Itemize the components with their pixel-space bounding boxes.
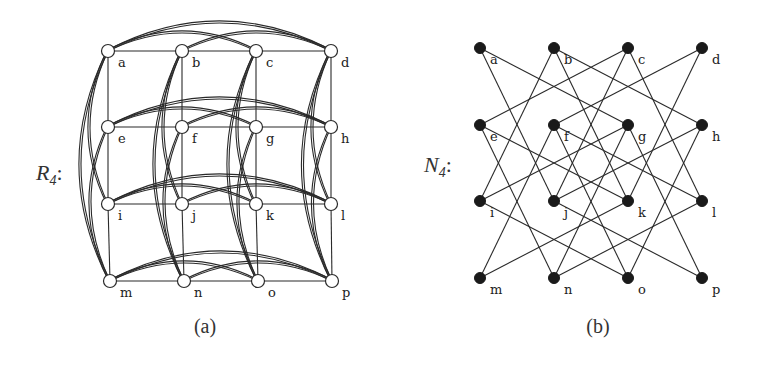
node-circle-icon <box>325 198 338 211</box>
node-j: j <box>549 196 569 221</box>
rook-graph-edges <box>108 51 332 281</box>
node-l: l <box>697 196 717 221</box>
node-label: m <box>120 285 132 300</box>
node-n: n <box>178 275 204 301</box>
node-circle-icon <box>102 198 115 211</box>
rook-graph-nodes: abcdefghijklmnop <box>102 45 351 301</box>
node-label: b <box>192 55 200 70</box>
node-dot-icon <box>623 120 634 131</box>
node-label: o <box>268 285 276 300</box>
node-label: c <box>266 55 273 70</box>
node-o: o <box>623 273 647 298</box>
knight-graph-nodes: abcdefghijklmnop <box>475 43 722 298</box>
node-m: m <box>475 273 503 298</box>
node-label: g <box>638 129 646 144</box>
node-m: m <box>104 275 133 301</box>
node-dot-icon <box>549 43 560 54</box>
node-dot-icon <box>475 273 486 284</box>
node-label: n <box>564 282 573 297</box>
node-label: p <box>712 282 720 297</box>
node-d: d <box>697 43 721 68</box>
node-label: f <box>564 129 570 144</box>
node-dot-icon <box>697 196 708 207</box>
node-b: b <box>176 45 201 71</box>
node-j: j <box>176 198 197 224</box>
node-circle-icon <box>102 121 115 134</box>
node-c: c <box>623 43 646 68</box>
node-label: k <box>266 208 274 223</box>
node-g: g <box>623 120 647 145</box>
node-circle-icon <box>326 275 339 288</box>
node-p: p <box>697 273 721 298</box>
node-dot-icon <box>623 196 634 207</box>
rook-graph-arcs <box>79 21 332 281</box>
node-dot-icon <box>549 273 560 284</box>
node-h: h <box>697 120 722 145</box>
node-a: a <box>102 45 127 71</box>
edge-l-p <box>331 204 332 281</box>
node-dot-icon <box>475 120 486 131</box>
node-circle-icon <box>250 45 263 58</box>
node-o: o <box>252 275 277 301</box>
node-l: l <box>325 198 346 224</box>
node-f: f <box>176 121 199 147</box>
node-label: a <box>490 52 498 67</box>
knight-graph-panel: abcdefghijklmnop N4: (b) <box>423 43 721 339</box>
node-c: c <box>250 45 274 71</box>
node-circle-icon <box>176 121 189 134</box>
node-label: g <box>266 131 274 146</box>
node-label: l <box>341 208 345 223</box>
node-dot-icon <box>623 43 634 54</box>
node-label: i <box>118 208 122 223</box>
node-p: p <box>326 275 351 301</box>
node-h: h <box>325 121 351 147</box>
node-circle-icon <box>102 45 115 58</box>
node-label: h <box>712 129 721 144</box>
node-dot-icon <box>623 273 634 284</box>
node-label: i <box>490 205 494 220</box>
node-circle-icon <box>325 121 338 134</box>
node-label: p <box>342 285 350 300</box>
node-label: l <box>712 205 716 220</box>
rook-graph-title: R4: <box>35 160 63 188</box>
node-label: o <box>638 282 646 297</box>
node-dot-icon <box>475 43 486 54</box>
node-e: e <box>102 121 127 147</box>
rook-graph-panel: abcdefghijklmnop R4: (a) <box>35 21 350 338</box>
node-dot-icon <box>549 120 560 131</box>
node-circle-icon <box>178 275 191 288</box>
node-label: b <box>564 52 572 67</box>
edge-j-n <box>182 204 184 281</box>
node-dot-icon <box>697 120 708 131</box>
edge-k-o <box>256 204 258 281</box>
node-circle-icon <box>176 45 189 58</box>
node-circle-icon <box>250 198 263 211</box>
node-label: c <box>638 52 645 67</box>
node-dot-icon <box>549 196 560 207</box>
node-label: e <box>118 131 126 146</box>
node-a: a <box>475 43 499 68</box>
node-label: d <box>341 55 349 70</box>
node-b: b <box>549 43 573 68</box>
node-e: e <box>475 120 499 145</box>
node-circle-icon <box>250 121 263 134</box>
node-dot-icon <box>697 273 708 284</box>
edge-i-m <box>108 204 110 281</box>
node-i: i <box>102 198 123 224</box>
knight-graph-edges <box>480 48 702 278</box>
caption-b: (b) <box>586 315 609 338</box>
node-label: k <box>638 205 646 220</box>
caption-a: (a) <box>194 315 216 338</box>
node-dot-icon <box>697 43 708 54</box>
node-i: i <box>475 196 495 221</box>
node-label: m <box>490 282 502 297</box>
node-circle-icon <box>252 275 265 288</box>
node-label: h <box>341 131 350 146</box>
figure-canvas: abcdefghijklmnop R4: (a) abcdefghijklmno… <box>0 0 760 368</box>
node-label: e <box>490 129 498 144</box>
node-label: j <box>562 205 568 220</box>
node-f: f <box>549 120 571 145</box>
node-d: d <box>325 45 350 71</box>
node-circle-icon <box>325 45 338 58</box>
node-circle-icon <box>104 275 117 288</box>
